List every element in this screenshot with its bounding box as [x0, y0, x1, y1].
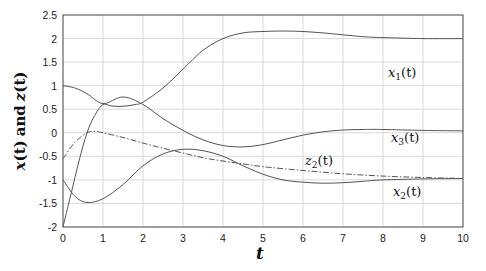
line-chart: 0123456789102.521.510.50-0.5-1-1.5-2 x1(… [0, 0, 486, 271]
label-x2: x2(t) [393, 184, 421, 201]
x-tick-label: 7 [340, 232, 346, 244]
y-tick-label: 1 [51, 80, 57, 92]
y-tick-label: 1.5 [42, 56, 57, 68]
tick-labels: 0123456789102.521.510.50-0.5-1-1.5-2 [39, 9, 469, 244]
y-tick-label: 0 [51, 127, 57, 139]
label-x1: x1(t) [388, 65, 416, 82]
y-tick-label: -0.5 [39, 150, 57, 162]
x-tick-label: 0 [60, 232, 66, 244]
y-tick-label: 0.5 [42, 103, 57, 115]
x-tick-label: 10 [457, 232, 469, 244]
x-tick-label: 1 [100, 232, 106, 244]
x-axis-label: t [256, 243, 264, 263]
y-tick-label: -1 [48, 174, 57, 186]
x-tick-label: 8 [380, 232, 386, 244]
y-tick-label: 2 [51, 33, 57, 45]
x-tick-label: 2 [140, 232, 146, 244]
x-tick-label: 4 [220, 232, 226, 244]
y-tick-label: -1.5 [39, 197, 57, 209]
y-tick-label: 2.5 [42, 9, 57, 21]
y-axis-label: x(t)andz(t) [11, 72, 29, 172]
label-x3: x3(t) [391, 130, 419, 147]
x-tick-label: 3 [180, 232, 186, 244]
x-tick-label: 6 [300, 232, 306, 244]
y-tick-label: -2 [48, 221, 57, 233]
label-z2: z2(t) [304, 153, 333, 170]
x-tick-label: 9 [420, 232, 426, 244]
